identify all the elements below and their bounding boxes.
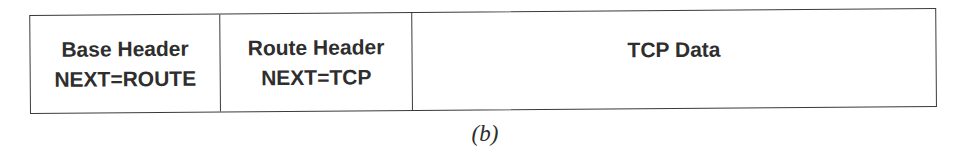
tcp-data-title: TCP Data xyxy=(627,35,720,66)
tcp-data-segment: TCP Data xyxy=(412,9,936,110)
figure-caption: (b) xyxy=(0,121,960,147)
base-header-title: Base Header xyxy=(61,33,188,64)
datagram-frame: Base Header NEXT=ROUTE Route Header NEXT… xyxy=(29,8,937,114)
base-header-next: NEXT=ROUTE xyxy=(54,63,196,94)
route-header-segment: Route Header NEXT=TCP xyxy=(220,13,413,112)
base-header-segment: Base Header NEXT=ROUTE xyxy=(30,15,221,113)
route-header-next: NEXT=TCP xyxy=(261,62,372,93)
route-header-title: Route Header xyxy=(248,32,385,63)
